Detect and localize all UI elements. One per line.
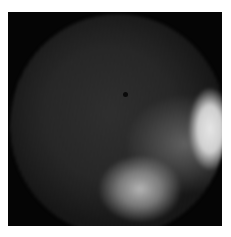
image-frame xyxy=(8,12,222,226)
fiber-pattern xyxy=(10,14,222,226)
dark-spot xyxy=(123,92,128,97)
circular-view xyxy=(10,14,222,226)
